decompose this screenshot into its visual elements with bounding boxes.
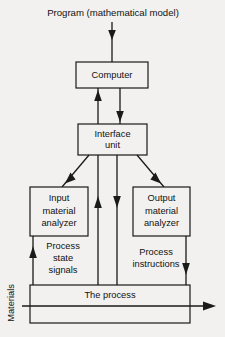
the-process-label: The process [84, 290, 136, 300]
node-computer: Computer [76, 62, 148, 88]
arrow-interface-to-output-analyzer [137, 155, 164, 187]
process-control-diagram: Program (mathematical model) Computer In… [0, 0, 225, 337]
input-analyzer-label-line1: Input [49, 193, 70, 203]
node-interface-unit: Interface unit [78, 124, 147, 155]
interface-unit-label-line1: Interface [94, 129, 130, 139]
label-process-state-signals: Process state signals [46, 241, 80, 275]
arrow-interface-to-input-analyzer [62, 155, 89, 187]
arrow-process-state-signals [29, 236, 37, 285]
arrow-computer-to-interface [116, 88, 124, 124]
interface-unit-label-line2: unit [105, 140, 120, 150]
process-state-signals-line1: Process [46, 241, 80, 251]
arrow-interface-to-computer [94, 88, 102, 124]
node-input-material-analyzer: Input material analyzer [30, 187, 88, 236]
process-instructions-line2: instructions [132, 259, 179, 269]
materials-label: Materials [6, 284, 16, 322]
diagram-title: Program (mathematical model) [47, 7, 179, 18]
computer-label: Computer [92, 70, 133, 80]
arrow-interface-to-process [113, 155, 121, 285]
node-output-material-analyzer: Output material analyzer [133, 187, 190, 236]
process-state-signals-line2: state [53, 253, 73, 263]
arrow-process-instructions [182, 236, 190, 285]
process-instructions-line1: Process [139, 247, 173, 257]
output-analyzer-label-line2: material [145, 206, 178, 216]
arrow-program-to-computer [108, 22, 116, 62]
output-analyzer-label-line3: analyzer [144, 218, 179, 228]
input-analyzer-label-line3: analyzer [41, 218, 76, 228]
output-analyzer-label-line1: Output [148, 193, 176, 203]
input-analyzer-label-line2: material [42, 206, 75, 216]
process-state-signals-line3: signals [49, 265, 78, 275]
node-the-process: The process [30, 285, 190, 323]
diagram-canvas: Program (mathematical model) Computer In… [0, 0, 225, 337]
arrow-process-to-interface [94, 155, 102, 285]
label-process-instructions: Process instructions [132, 247, 179, 269]
